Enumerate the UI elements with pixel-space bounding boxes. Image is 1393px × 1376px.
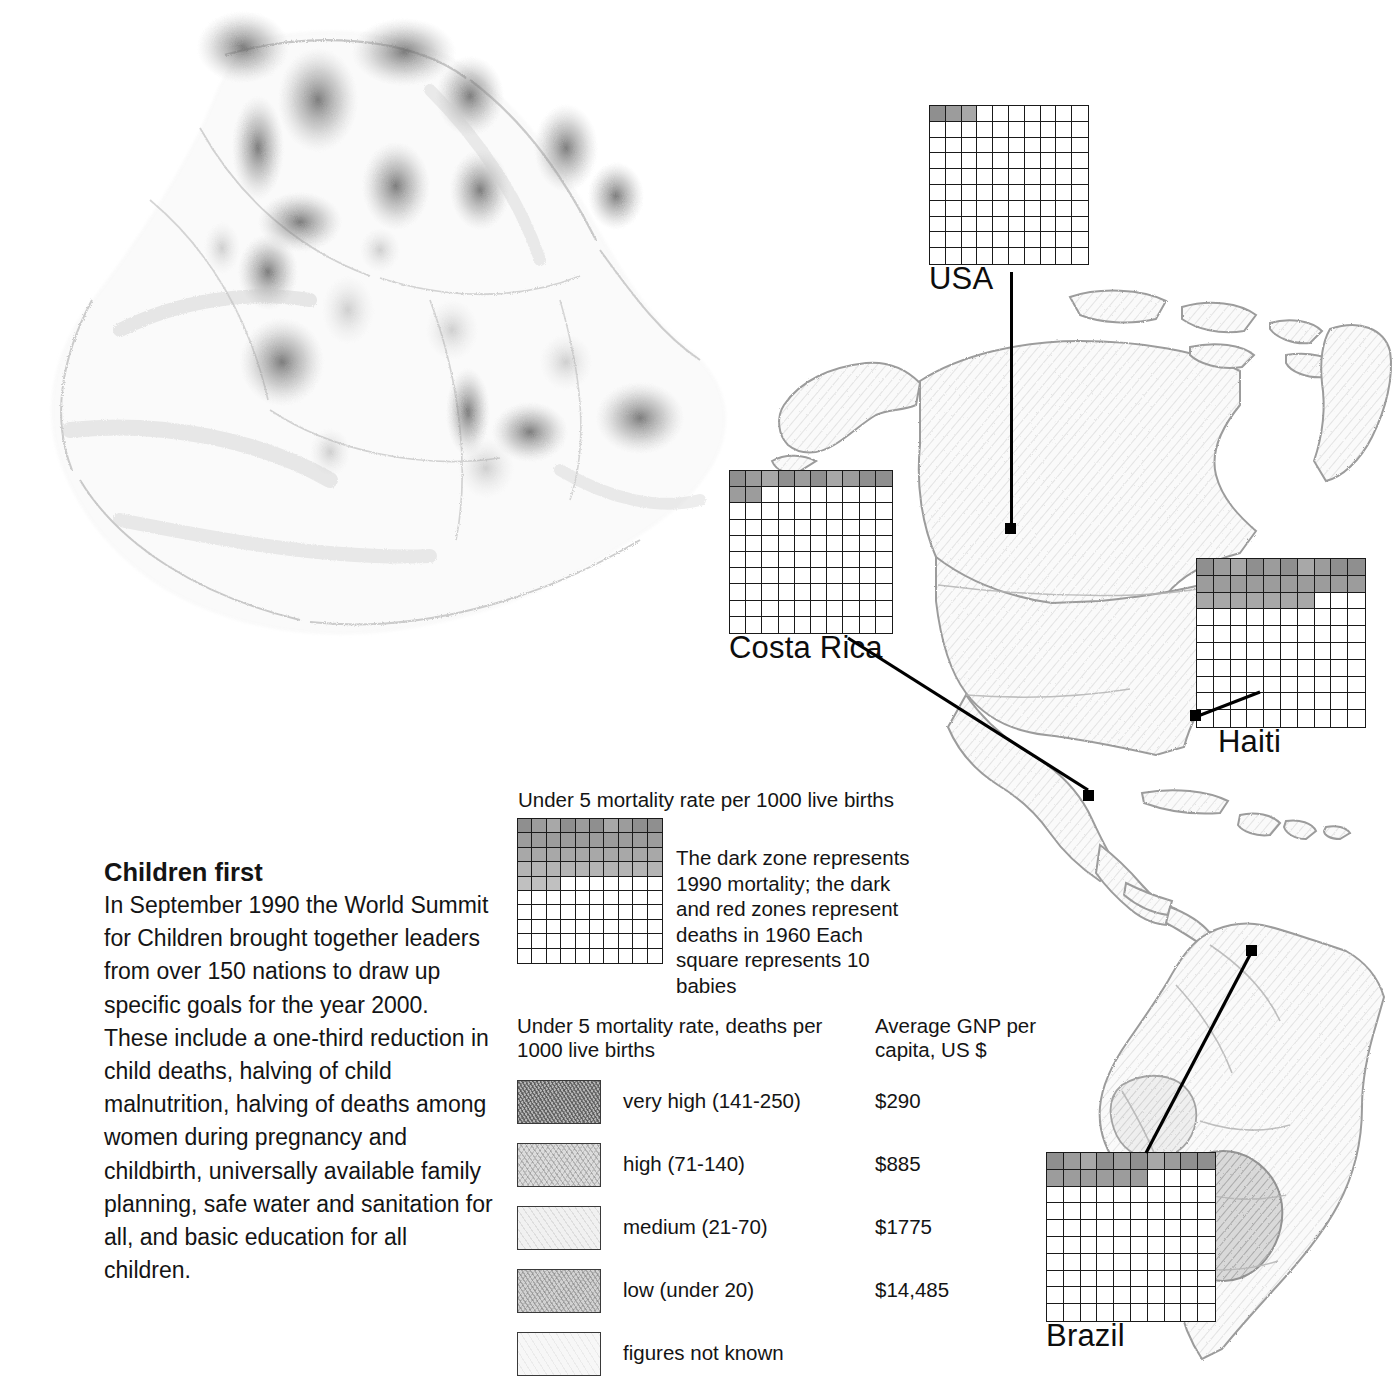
- grid-cell: [1131, 1187, 1148, 1204]
- grid-cell: [1214, 609, 1231, 626]
- grid-cell: [619, 833, 633, 847]
- grid-cell: [1298, 643, 1315, 660]
- grid-cell: [1056, 169, 1072, 185]
- costa-rica-mortality-grid: [729, 470, 893, 634]
- grid-cell: [532, 819, 546, 833]
- grid-cell: [1331, 710, 1348, 727]
- grid-cell: [1148, 1170, 1165, 1187]
- grid-cell: [648, 905, 662, 919]
- grid-cell: [561, 848, 575, 862]
- grid-cell: [860, 520, 876, 536]
- grid-cell: [1298, 609, 1315, 626]
- grid-cell: [1025, 185, 1041, 201]
- grid-cell: [1181, 1237, 1198, 1254]
- grid-cell: [1047, 1237, 1064, 1254]
- grid-cell: [977, 106, 993, 122]
- grid-cell: [1165, 1203, 1182, 1220]
- grid-cell: [1148, 1254, 1165, 1271]
- usa-mortality-grid: [929, 105, 1089, 265]
- grid-cell: [795, 568, 811, 584]
- grid-cell: [1009, 153, 1025, 169]
- grid-cell: [1056, 217, 1072, 233]
- grid-cell: [1231, 576, 1248, 593]
- grid-cell: [860, 503, 876, 519]
- grid-cell: [1281, 693, 1298, 710]
- grid-cell: [946, 232, 962, 248]
- grid-cell: [1047, 1170, 1064, 1187]
- grid-cell: [619, 891, 633, 905]
- grid-cell: [1009, 106, 1025, 122]
- leader-line-usa: [1010, 272, 1013, 528]
- grid-cell: [876, 568, 892, 584]
- grid-cell: [1264, 576, 1281, 593]
- grid-cell: [1131, 1254, 1148, 1271]
- grid-cell: [1148, 1187, 1165, 1204]
- grid-cell: [876, 487, 892, 503]
- grid-cell: [1214, 559, 1231, 576]
- grid-cell: [843, 552, 859, 568]
- grid-cell: [1198, 1187, 1215, 1204]
- grid-cell: [779, 520, 795, 536]
- grid-cell: [962, 153, 978, 169]
- article-block: Children first In September 1990 the Wor…: [104, 858, 494, 1287]
- grid-cell: [730, 520, 746, 536]
- country-label-usa: USA: [929, 263, 1089, 294]
- grid-cell: [1148, 1304, 1165, 1321]
- grid-cell: [590, 891, 604, 905]
- grid-cell: [1315, 609, 1332, 626]
- grid-cell: [962, 217, 978, 233]
- country-label-brazil: Brazil: [1046, 1320, 1216, 1351]
- grid-cell: [1331, 643, 1348, 660]
- grid-cell: [1072, 201, 1088, 217]
- grid-cell: [1247, 593, 1264, 610]
- grid-cell: [993, 153, 1009, 169]
- grid-cell: [811, 568, 827, 584]
- grid-cell: [962, 201, 978, 217]
- brazil-mortality-grid: [1046, 1152, 1216, 1322]
- grid-cell: [827, 520, 843, 536]
- grid-cell: [633, 934, 647, 948]
- grid-cell: [1348, 609, 1365, 626]
- grid-cell: [1114, 1170, 1131, 1187]
- grid-cell: [604, 920, 618, 934]
- grid-cell: [1315, 710, 1332, 727]
- grid-cell: [1131, 1237, 1148, 1254]
- grid-cell: [762, 487, 778, 503]
- grid-cell: [811, 552, 827, 568]
- grid-cell: [827, 536, 843, 552]
- grid-cell: [1041, 122, 1057, 138]
- grid-cell: [1315, 643, 1332, 660]
- grid-cell: [827, 568, 843, 584]
- grid-cell: [619, 848, 633, 862]
- grid-cell: [977, 201, 993, 217]
- grid-cell: [1281, 559, 1298, 576]
- legend-label: low (under 20): [623, 1278, 754, 1302]
- grid-cell: [1041, 185, 1057, 201]
- grid-cell: [1281, 677, 1298, 694]
- grid-cell: [576, 949, 590, 963]
- grid-cell: [1348, 693, 1365, 710]
- grid-cell: [590, 920, 604, 934]
- legend-label: very high (141-250): [623, 1089, 801, 1113]
- grid-cell: [604, 862, 618, 876]
- grid-cell: [1081, 1153, 1098, 1170]
- grid-cell: [1264, 559, 1281, 576]
- grid-cell: [779, 536, 795, 552]
- grid-cell: [576, 891, 590, 905]
- grid-cell: [1041, 169, 1057, 185]
- grid-cell: [1064, 1254, 1081, 1271]
- grid-cell: [946, 153, 962, 169]
- grid-cell: [1131, 1220, 1148, 1237]
- grid-cell: [648, 862, 662, 876]
- grid-cell: [1165, 1254, 1182, 1271]
- grid-cell: [1298, 626, 1315, 643]
- grid-cell: [1298, 677, 1315, 694]
- grid-cell: [547, 905, 561, 919]
- map-marker-brazil: [1246, 945, 1257, 956]
- grid-cell: [1081, 1237, 1098, 1254]
- grid-cell: [876, 520, 892, 536]
- grid-cell: [762, 584, 778, 600]
- grid-cell: [1056, 122, 1072, 138]
- grid-cell: [561, 920, 575, 934]
- grid-cell: [827, 471, 843, 487]
